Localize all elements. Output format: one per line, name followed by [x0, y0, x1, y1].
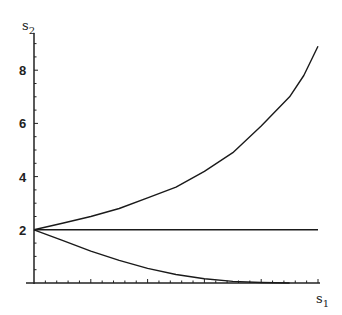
y-tick-label: 2: [19, 223, 26, 238]
y-tick-label: 6: [19, 116, 26, 131]
y-tick-labels: 2468: [19, 63, 27, 238]
y-tick-label: 8: [19, 63, 26, 78]
y-tick-label: 4: [19, 170, 27, 185]
lower-curve: [34, 230, 290, 283]
plot-series: [34, 46, 318, 283]
chart: 2468 s2 s1: [0, 0, 342, 315]
upper-curve: [34, 46, 318, 230]
x-axis-label: s1: [316, 291, 329, 309]
y-axis-label: s2: [22, 18, 35, 36]
